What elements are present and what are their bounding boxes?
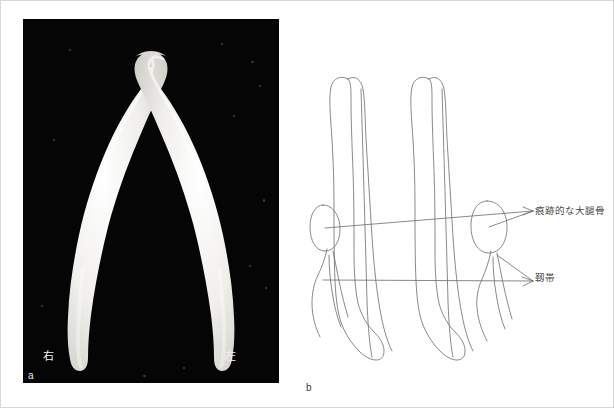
panel-b-letter: b [306,383,312,393]
ligament-strand-right-1 [312,249,327,337]
photo-speck [143,375,146,377]
photo-speck [259,85,261,87]
photo-speck [53,139,55,141]
photo-speck [41,305,43,307]
panel-a-letter: a [28,371,34,381]
ligament-strand-left-1 [477,251,491,341]
photo-speck [233,115,235,117]
photo-speck [265,287,267,289]
annotation-vestigial-femur: 痕跡的な大腿骨 [535,206,605,216]
panel-a-photograph: 右 左 [23,19,279,383]
annotation-ligament: 靱帯 [535,273,555,283]
diagram-outline-right [310,77,392,360]
photo-speck [69,49,71,51]
figure-root: 右 左 a [0,0,614,408]
ligament-strand-left-3 [493,257,505,329]
photo-speck [263,199,265,202]
leader-lines-vestigial-femur [325,211,533,228]
specimen-photo-svg [23,19,279,383]
photo-speck [183,367,185,369]
arrowhead-ligament [522,277,533,286]
photo-speck [251,61,254,63]
photo-speck [249,265,251,267]
diagram-outline-left [411,77,512,360]
photo-speck [221,43,223,45]
photo-label-left: 左 [225,351,236,362]
photo-label-right: 右 [43,351,54,362]
